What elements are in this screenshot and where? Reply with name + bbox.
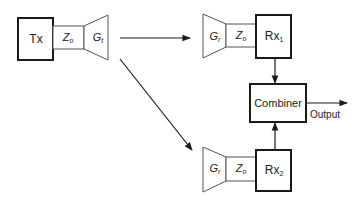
rx1-gain-label: Gr — [210, 31, 221, 43]
rx2-gain-label: Gr — [210, 163, 221, 175]
rx2-impedance-label: Zo — [236, 163, 247, 175]
tx-gain-label: Gt — [93, 32, 104, 44]
tx-impedance-label: Zo — [63, 32, 74, 44]
diversity-diagram — [0, 0, 363, 203]
tx-label: Tx — [29, 33, 42, 45]
diversity-path-arrow — [120, 59, 192, 150]
output-label: Output — [310, 110, 340, 120]
combiner-label: Combiner — [254, 98, 302, 109]
rx1-impedance-label: Zo — [236, 30, 247, 42]
rx2-label: Rx2 — [265, 164, 284, 177]
rx1-label: Rx1 — [265, 30, 284, 43]
